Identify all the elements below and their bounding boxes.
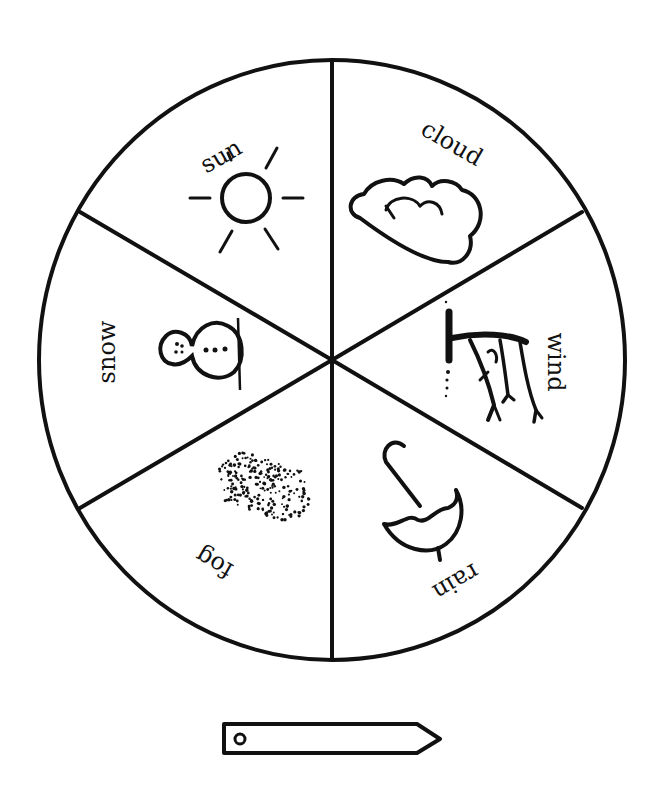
wheel-spokes <box>80 61 582 659</box>
segment-snow[interactable]: snow <box>93 318 242 390</box>
segment-label-wind: wind <box>542 332 570 391</box>
segment-label-snow: snow <box>93 320 121 383</box>
segment-fog[interactable]: fog <box>190 451 310 584</box>
segment-label-sun: sun <box>195 133 246 179</box>
cloud-icon <box>351 177 481 262</box>
segment-label-cloud: cloud <box>416 114 487 171</box>
segment-label-rain: rain <box>428 558 484 607</box>
fog-dots-icon <box>218 451 310 521</box>
segment-cloud[interactable]: cloud <box>351 114 488 262</box>
segment-wind[interactable]: wind <box>445 301 570 422</box>
weather-wheel-diagram: sun cloud wind <box>0 0 663 800</box>
snowman-icon <box>160 318 241 390</box>
segment-sun[interactable]: sun <box>190 133 303 252</box>
arrow-pointer-icon[interactable] <box>224 724 440 753</box>
umbrella-icon <box>384 443 461 560</box>
segment-rain[interactable]: rain <box>384 443 484 607</box>
wind-tree-icon <box>445 301 542 422</box>
segment-label-fog: fog <box>190 541 238 585</box>
